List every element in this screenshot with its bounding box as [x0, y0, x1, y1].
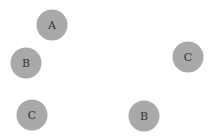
node-b: B: [129, 101, 160, 132]
node-label: C: [184, 51, 192, 64]
node-c: C: [173, 42, 204, 73]
node-c: C: [17, 100, 48, 131]
node-label: B: [140, 110, 148, 123]
node-label: C: [28, 109, 36, 122]
node-a: A: [37, 10, 68, 41]
node-b: B: [11, 48, 42, 79]
node-label: B: [22, 57, 30, 70]
diagram-canvas: A B C C B: [0, 0, 212, 139]
node-label: A: [48, 19, 56, 32]
